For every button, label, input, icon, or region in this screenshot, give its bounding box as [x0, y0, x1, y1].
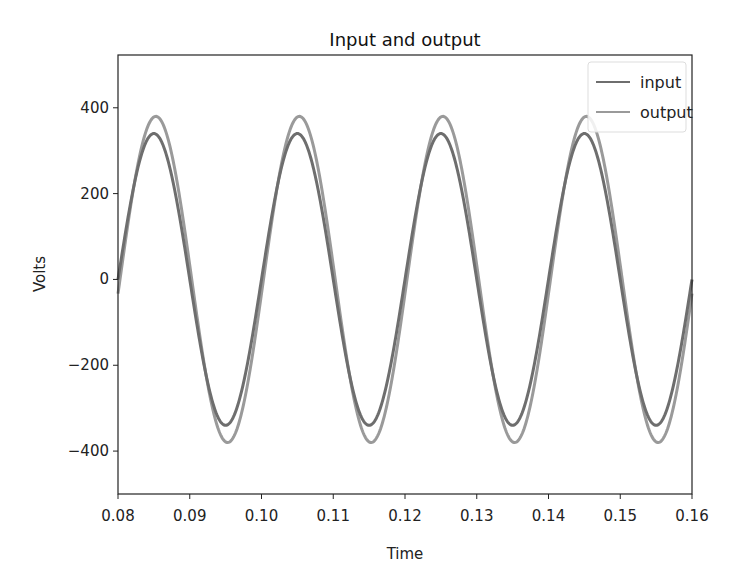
x-tick-label: 0.11	[317, 507, 350, 525]
y-tick-label: 400	[80, 99, 109, 117]
x-axis: 0.080.090.100.110.120.130.140.150.16	[101, 494, 708, 525]
y-tick-label: −400	[68, 442, 109, 460]
plot-area	[118, 116, 692, 442]
legend-output-label: output	[640, 103, 693, 122]
x-tick-label: 0.14	[532, 507, 565, 525]
y-tick-label: 200	[80, 185, 109, 203]
chart-title: Input and output	[329, 29, 480, 50]
x-tick-label: 0.13	[460, 507, 493, 525]
x-tick-label: 0.09	[173, 507, 206, 525]
x-tick-label: 0.16	[675, 507, 708, 525]
y-tick-label: −200	[68, 356, 109, 374]
y-tick-label: 0	[99, 270, 109, 288]
legend-input-label: input	[640, 73, 681, 92]
x-tick-label: 0.10	[245, 507, 278, 525]
y-axis: 4002000−200−400	[68, 99, 118, 460]
x-axis-label: Time	[386, 545, 424, 563]
legend: input output	[588, 62, 693, 132]
x-tick-label: 0.15	[604, 507, 637, 525]
y-axis-label: Volts	[31, 256, 49, 292]
x-tick-label: 0.08	[101, 507, 134, 525]
x-tick-label: 0.12	[388, 507, 421, 525]
chart-canvas: Input and output 0.080.090.100.110.120.1…	[0, 0, 737, 588]
